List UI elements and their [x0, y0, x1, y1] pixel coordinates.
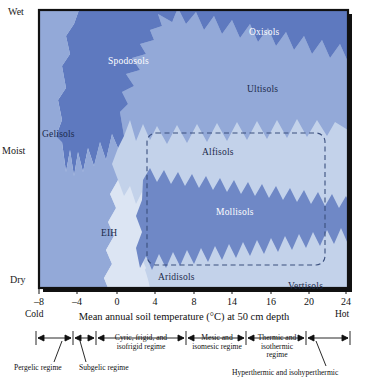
soil-climate-diagram: Wet Moist Dry –8 –4 0 4 8 14 16 20 24 Co…	[0, 0, 368, 385]
x-tick-7: 20	[295, 296, 323, 307]
diagram-canvas	[0, 0, 368, 385]
x-axis-title: Mean annual soil temperature (°C) at 50 …	[0, 311, 368, 322]
soil-label-vertisols: Vertisols	[288, 281, 323, 291]
soil-label-spodosols: Spodosols	[108, 56, 149, 66]
soil-regions	[39, 8, 348, 288]
x-tick-5: 14	[218, 296, 246, 307]
x-tick-0: –8	[25, 296, 53, 307]
regime-label-mesic: Mesic and isomesic regime	[191, 334, 243, 351]
x-tick-6: 16	[257, 296, 285, 307]
y-axis-label-moist: Moist	[2, 145, 25, 156]
x-tick-8: 24	[332, 296, 360, 307]
x-tick-1: –4	[63, 296, 91, 307]
soil-label-mollisols: Mollisols	[216, 207, 254, 217]
y-axis-label-dry: Dry	[10, 274, 26, 285]
soil-label-ultisols: Ultisols	[247, 84, 278, 94]
x-tick-2: 0	[103, 296, 131, 307]
soil-label-alfisols: Alfisols	[202, 147, 234, 157]
x-tick-4: 8	[180, 296, 208, 307]
regime-label-subgelic: Subgelic regime	[79, 364, 129, 373]
soil-label-aridisols: Aridisols	[158, 272, 195, 282]
x-tick-3: 4	[141, 296, 169, 307]
y-axis-label-wet: Wet	[8, 6, 24, 17]
soil-label-oxisols: Oxisols	[249, 27, 279, 37]
regime-label-cryic: Cyric, frigid, and isofrigid regime	[103, 334, 179, 351]
regime-label-thermic: Thermic and isothermic regime	[251, 334, 303, 360]
regime-label-hyperthermic: Hyperthermic and isohyperthermic	[232, 369, 338, 378]
soil-label-gelisols: Gelisols	[42, 129, 75, 139]
soil-label-eih: EIH	[101, 228, 117, 238]
regime-label-pergelic: Pergelic regime	[14, 364, 62, 373]
